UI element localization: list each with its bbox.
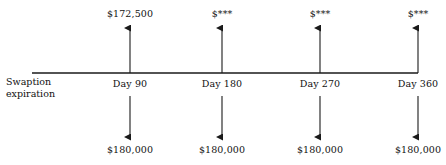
swaption-timeline-diagram: Swaption expiration $172,500 $*** $*** $…: [0, 0, 446, 165]
outflow-label-day-360: $180,000: [395, 144, 441, 155]
outflow-label-day-180: $180,000: [199, 144, 245, 155]
day-label-day-90: Day 90: [113, 78, 147, 89]
swaption-expiration-label-line2: expiration: [6, 88, 55, 100]
outflow-label-day-270: $180,000: [297, 144, 343, 155]
swaption-expiration-label: Swaption expiration: [6, 76, 55, 99]
inflow-label-day-90: $172,500: [107, 8, 153, 19]
inflow-label-day-180: $***: [212, 8, 233, 19]
day-label-day-270: Day 270: [300, 78, 341, 89]
inflow-label-day-360: $***: [408, 8, 429, 19]
outflow-label-day-90: $180,000: [107, 144, 153, 155]
inflow-label-day-270: $***: [310, 8, 331, 19]
day-label-day-180: Day 180: [202, 78, 243, 89]
swaption-expiration-label-line1: Swaption: [6, 76, 55, 88]
day-label-day-360: Day 360: [398, 78, 439, 89]
